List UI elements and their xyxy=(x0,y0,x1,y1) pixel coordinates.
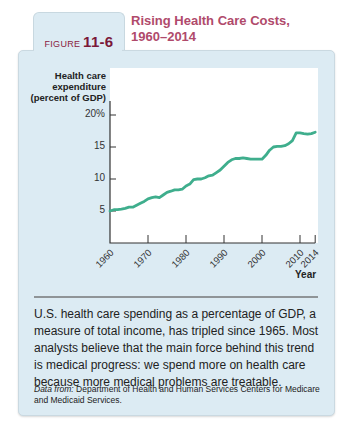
data-source: Data from: Department of Health and Huma… xyxy=(34,384,324,406)
axes xyxy=(110,101,315,243)
divider xyxy=(34,296,318,298)
source-label: Data from: xyxy=(34,384,74,394)
data-line xyxy=(110,132,315,211)
source-text: Department of Health and Human Services … xyxy=(34,384,320,405)
figure-caption: U.S. health care spending as a percentag… xyxy=(34,306,324,391)
x-axis-title: Year xyxy=(295,269,316,280)
